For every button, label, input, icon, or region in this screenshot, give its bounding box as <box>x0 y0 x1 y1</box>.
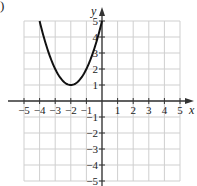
y-tick-label: −4 <box>86 159 98 171</box>
x-axis-label: x <box>188 103 195 117</box>
y-tick-label: 2 <box>93 63 99 75</box>
axes <box>8 7 194 186</box>
y-tick-label: −3 <box>86 143 98 155</box>
y-tick-label: −5 <box>86 175 98 186</box>
y-tick-label: −2 <box>86 127 98 139</box>
x-tick-label: 4 <box>162 104 168 116</box>
parabola-chart: −5−4−3−2−112345−5−4−3−2−112345 x y <box>0 0 197 186</box>
x-tick-label: 5 <box>177 104 183 116</box>
x-tick-label: 2 <box>130 104 136 116</box>
x-tick-label: 3 <box>146 104 152 116</box>
x-tick-label: −3 <box>49 104 61 116</box>
x-tick-label: −4 <box>34 104 46 116</box>
y-tick-label: 1 <box>93 79 99 91</box>
x-tick-label: −5 <box>18 104 30 116</box>
y-axis-label: y <box>90 4 97 18</box>
x-tick-label: 1 <box>115 104 121 116</box>
y-tick-label: −1 <box>86 111 98 123</box>
x-tick-label: −2 <box>65 104 77 116</box>
